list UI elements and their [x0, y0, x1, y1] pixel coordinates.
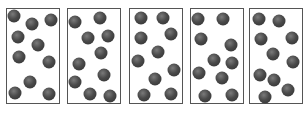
particle-ball: [287, 56, 300, 69]
particle-ball: [253, 13, 266, 26]
particle-ball: [195, 33, 208, 46]
particle-ball: [217, 13, 230, 26]
particle-ball: [69, 76, 82, 89]
particle-ball: [267, 48, 280, 61]
particle-ball: [82, 32, 95, 45]
particle-ball: [8, 10, 21, 23]
particle-ball: [69, 16, 82, 29]
particle-ball: [43, 88, 56, 101]
particle-ball: [135, 12, 148, 25]
particle-ball: [24, 76, 37, 89]
particle-ball: [149, 73, 162, 86]
particle-ball: [192, 13, 205, 26]
particle-ball: [95, 47, 108, 60]
particle-ball: [226, 89, 239, 102]
particle-ball: [208, 54, 221, 67]
particle-ball: [268, 74, 281, 87]
particle-ball: [273, 15, 286, 28]
particle-ball: [152, 46, 165, 59]
particle-ball: [43, 56, 56, 69]
particle-ball: [165, 28, 178, 41]
particle-ball: [254, 69, 267, 82]
particle-ball: [168, 64, 181, 77]
particle-ball: [94, 12, 107, 25]
particle-ball: [132, 55, 145, 68]
particle-ball: [13, 51, 26, 64]
particle-ball: [12, 31, 25, 44]
particle-ball: [165, 88, 178, 101]
particle-ball: [135, 32, 148, 45]
particle-ball: [259, 91, 272, 104]
particle-ball: [282, 84, 295, 97]
particle-ball: [26, 18, 39, 31]
particle-ball: [216, 72, 229, 85]
particle-ball: [225, 39, 238, 52]
particle-ball: [104, 90, 117, 103]
particle-ball: [226, 57, 239, 70]
particle-ball: [193, 67, 206, 80]
particle-ball: [98, 69, 111, 82]
particle-ball: [102, 30, 115, 43]
particle-ball: [45, 14, 58, 27]
particle-ball: [138, 89, 151, 102]
particle-ball: [32, 39, 45, 52]
particle-ball: [286, 32, 299, 45]
particle-ball: [255, 33, 268, 46]
particle-ball: [9, 87, 22, 100]
particle-ball: [84, 88, 97, 101]
particle-ball: [199, 90, 212, 103]
particle-ball: [73, 58, 86, 71]
particle-ball: [157, 12, 170, 25]
